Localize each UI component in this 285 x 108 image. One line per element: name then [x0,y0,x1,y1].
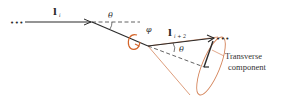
transverse-pointer [212,50,224,56]
transverse-label-line1: Transverse [225,51,262,61]
theta-label-cone: θ [179,45,184,54]
ellipsis-right: ••• [216,35,230,43]
ellipsis-left: ••• [10,19,24,27]
theta-label-top: θ [108,11,113,20]
theta-arc-top [110,22,112,29]
cone-ellipse [191,34,231,98]
bond-i2-subscript: i + 2 [174,33,186,39]
bond-i-subscript: i [59,12,61,18]
cone-axis-dashed [148,46,204,67]
bond-cone-diagram: ••• l i θ φ l i + 2 θ ••• Transverse com… [0,0,285,108]
bond-i2-label: l [168,27,172,38]
bond-i-label: l [53,6,57,17]
phi-label: φ [146,25,152,34]
transverse-component-line [204,41,213,67]
theta-arc-cone [173,43,175,52]
transverse-label-line2: component [228,62,266,72]
